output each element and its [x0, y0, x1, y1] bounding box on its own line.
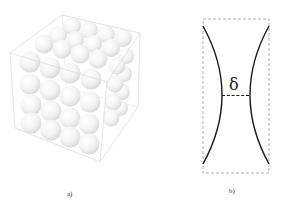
- figure: [0, 0, 289, 210]
- delta-symbol: δ: [229, 75, 239, 94]
- panel-a-cube: [10, 15, 140, 162]
- panel-a-label: a): [67, 190, 72, 198]
- right-sphere-curve: [250, 26, 269, 164]
- left-sphere-curve: [203, 26, 222, 164]
- dashed-bounding-box: [203, 19, 269, 173]
- panel-b-neck: [203, 19, 269, 173]
- panel-b-label: b): [229, 187, 235, 195]
- sphere-front-face: [20, 52, 102, 155]
